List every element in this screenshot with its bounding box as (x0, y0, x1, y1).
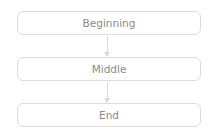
node-label: End (99, 109, 119, 121)
arrow-down-icon (107, 82, 108, 102)
node-beginning: Beginning (17, 11, 201, 35)
arrow-down-icon (107, 36, 108, 56)
node-middle: Middle (17, 57, 201, 81)
node-label: Middle (92, 63, 127, 75)
node-label: Beginning (83, 17, 136, 29)
node-end: End (17, 103, 201, 127)
